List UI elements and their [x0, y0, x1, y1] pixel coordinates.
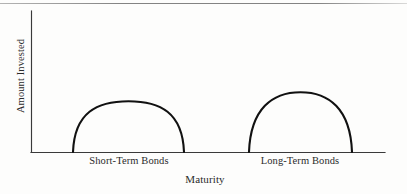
x-axis-title: Maturity [150, 173, 260, 185]
curve-long-term-bonds [249, 92, 352, 152]
curve-short-term-bonds [73, 101, 184, 152]
x-tick-label-long-term-bonds: Long-Term Bonds [244, 155, 356, 166]
bond-maturity-figure: Amount Invested Short-Term Bonds Long-Te… [0, 0, 407, 194]
y-axis-title: Amount Invested [14, 10, 28, 142]
x-tick-label-short-term-bonds: Short-Term Bonds [73, 155, 185, 166]
